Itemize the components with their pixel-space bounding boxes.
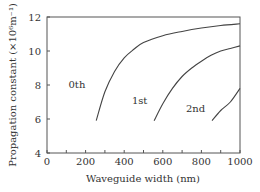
- curves: [96, 24, 240, 121]
- y-axis-label: Propagation constant (×10⁶m⁻¹): [7, 3, 18, 167]
- curve-label-2nd: 2nd: [186, 103, 206, 114]
- x-tick-label: 0: [44, 156, 50, 167]
- x-tick-label: 800: [192, 156, 211, 167]
- line-chart: 020040060080010004681012 0th1st2nd Waveg…: [0, 0, 260, 192]
- x-axis-label: Waveguide width (nm): [86, 173, 200, 184]
- x-tick-label: 1000: [227, 156, 252, 167]
- axis-ticks: 020040060080010004681012: [28, 12, 252, 168]
- y-tick-label: 12: [28, 12, 41, 23]
- curve-label-1st: 1st: [132, 95, 148, 106]
- curve-label-0th: 0th: [69, 79, 86, 90]
- y-tick-label: 10: [28, 46, 41, 57]
- x-tick-label: 200: [76, 156, 95, 167]
- curve-2nd: [212, 88, 240, 120]
- x-tick-label: 600: [153, 156, 172, 167]
- x-tick-label: 400: [115, 156, 134, 167]
- y-tick-label: 6: [35, 114, 41, 125]
- curve-0th: [96, 24, 240, 121]
- y-tick-label: 4: [35, 148, 41, 159]
- y-tick-label: 8: [35, 80, 41, 91]
- curve-labels: 0th1st2nd: [69, 79, 206, 114]
